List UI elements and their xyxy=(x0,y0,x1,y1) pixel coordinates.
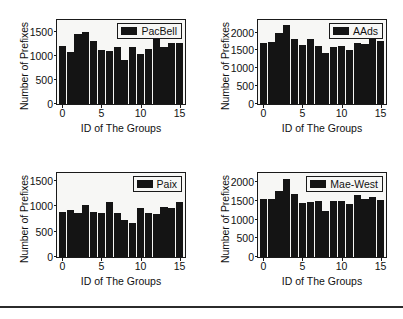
legend-label: PacBell xyxy=(141,26,177,37)
bar xyxy=(129,47,136,104)
x-tick-mark xyxy=(263,257,264,261)
y-tick-mark xyxy=(255,103,259,104)
bar xyxy=(369,38,376,104)
y-tick-label: 1000 xyxy=(231,62,254,74)
bar xyxy=(291,39,298,104)
x-tick-label: 0 xyxy=(261,260,267,272)
y-tick-label: 0 xyxy=(248,251,254,263)
x-tick-label: 0 xyxy=(60,260,66,272)
y-tick-label: 0 xyxy=(47,251,53,263)
bar xyxy=(354,43,361,104)
legend-swatch-icon xyxy=(333,27,349,35)
x-tick-label: 10 xyxy=(135,107,147,119)
bar xyxy=(153,214,160,257)
bar xyxy=(145,213,152,257)
horizontal-rule xyxy=(0,306,403,308)
x-tick-mark xyxy=(180,104,181,108)
bar xyxy=(307,39,314,104)
bar xyxy=(67,52,74,104)
legend-label: AAds xyxy=(353,26,378,37)
bar xyxy=(90,212,97,257)
chart-panel-paix: Number of Prefixes Paix 0500100015000510… xyxy=(0,155,201,305)
legend: PacBell xyxy=(117,23,182,39)
bar xyxy=(315,46,322,104)
x-tick-mark xyxy=(101,257,102,261)
bar xyxy=(82,32,89,104)
x-tick-label: 15 xyxy=(174,107,186,119)
bar xyxy=(74,34,81,104)
plot-area: Mae-West 0500100015002000051015 xyxy=(257,172,387,258)
figure-multi-panel-bar-charts: Number of Prefixes PacBell 0500100015000… xyxy=(0,0,403,319)
y-tick-mark xyxy=(54,180,58,181)
x-tick-mark xyxy=(141,104,142,108)
bar xyxy=(121,220,128,257)
y-tick-label: 500 xyxy=(236,80,254,92)
bar xyxy=(106,202,113,257)
x-tick-label: 5 xyxy=(300,260,306,272)
bar xyxy=(59,46,66,104)
bar xyxy=(330,47,337,104)
bar xyxy=(176,202,183,257)
y-tick-mark xyxy=(54,205,58,206)
bar xyxy=(299,45,306,104)
x-tick-label: 5 xyxy=(300,107,306,119)
bar xyxy=(377,200,384,257)
bar xyxy=(67,210,74,257)
y-tick-mark xyxy=(255,200,259,201)
plot-area: AAds 0500100015002000051015 xyxy=(257,19,387,105)
y-tick-mark xyxy=(54,55,58,56)
bar xyxy=(338,201,345,257)
legend-label: Paix xyxy=(157,179,177,190)
bar xyxy=(98,213,105,257)
y-tick-mark xyxy=(54,256,58,257)
legend-label: Mae-West xyxy=(330,179,378,190)
y-tick-label: 1000 xyxy=(30,50,53,62)
chart-panel-aads: Number of Prefixes AAds 0500100015002000… xyxy=(201,2,402,152)
x-tick-label: 10 xyxy=(336,260,348,272)
bar xyxy=(354,195,361,257)
bar xyxy=(299,203,306,257)
bar xyxy=(268,199,275,257)
bar xyxy=(330,201,337,257)
x-tick-mark xyxy=(342,104,343,108)
y-tick-mark xyxy=(255,256,259,257)
bar xyxy=(106,51,113,104)
y-tick-label: 1500 xyxy=(30,26,53,38)
x-tick-mark xyxy=(381,104,382,108)
x-tick-mark xyxy=(263,104,264,108)
bar xyxy=(291,194,298,257)
chart-panel-mae-west: Number of Prefixes Mae-West 050010001500… xyxy=(201,155,402,305)
bar xyxy=(268,42,275,104)
bar xyxy=(361,199,368,257)
x-tick-mark xyxy=(302,257,303,261)
bar xyxy=(74,213,81,257)
bar xyxy=(168,208,175,257)
legend: AAds xyxy=(329,23,383,39)
legend: Mae-West xyxy=(306,176,383,192)
x-axis-label: ID of The Groups xyxy=(257,275,387,287)
bar xyxy=(114,213,121,257)
plot-area: PacBell 050010001500051015 xyxy=(56,19,186,105)
x-tick-label: 5 xyxy=(99,260,105,272)
bar xyxy=(114,47,121,104)
x-tick-label: 10 xyxy=(135,260,147,272)
y-tick-label: 2000 xyxy=(231,176,254,188)
bar xyxy=(322,53,329,104)
x-tick-label: 15 xyxy=(375,107,387,119)
x-axis-label: ID of The Groups xyxy=(56,275,186,287)
y-tick-mark xyxy=(255,49,259,50)
legend: Paix xyxy=(133,176,182,192)
x-tick-mark xyxy=(342,257,343,261)
y-tick-mark xyxy=(255,181,259,182)
y-tick-mark xyxy=(255,219,259,220)
bar xyxy=(168,43,175,104)
x-tick-label: 0 xyxy=(60,107,66,119)
x-tick-label: 15 xyxy=(174,260,186,272)
y-tick-label: 1500 xyxy=(231,195,254,207)
bar xyxy=(153,39,160,104)
bar xyxy=(90,41,97,104)
y-axis-label: Number of Prefixes xyxy=(18,159,30,279)
y-tick-label: 0 xyxy=(248,98,254,110)
x-axis-label: ID of The Groups xyxy=(257,122,387,134)
bar xyxy=(137,208,144,257)
